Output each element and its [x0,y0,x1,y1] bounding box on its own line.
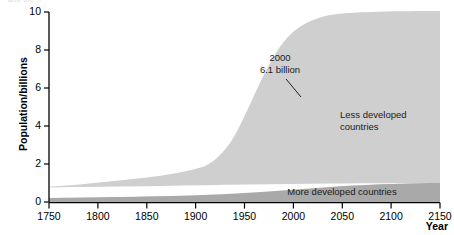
y-axis-title: Population/billions [17,39,29,169]
population-growth-figure: and the . [0,0,454,235]
x-tick-label-2050: 2050 [322,210,362,222]
y-tick-label-0: 0 [19,195,41,207]
label-less-developed-line2: countries [340,121,407,133]
x-tick-label-2100: 2100 [371,210,411,222]
x-axis-title: Year [426,220,448,232]
annotation-value: 6.1 billion [234,64,326,76]
x-axis-ticks [49,203,440,209]
area-less-developed-countries [49,11,440,187]
x-tick-label-2000: 2000 [273,210,313,222]
x-tick-label-1750: 1750 [29,210,69,222]
x-tick-label-1850: 1850 [127,210,167,222]
x-tick-label-1800: 1800 [78,210,118,222]
label-less-developed-line1: Less developed [340,109,407,121]
y-tick-label-10: 10 [19,5,41,17]
label-less-developed-countries: Less developed countries [340,109,407,132]
y-axis-ticks [44,12,49,202]
x-tick-label-1950: 1950 [225,210,265,222]
annotation-world-population-2000: 2000 6.1 billion [234,52,326,75]
x-tick-label-1900: 1900 [176,210,216,222]
label-more-developed-countries: More developed countries [262,186,422,198]
annotation-year: 2000 [234,52,326,64]
